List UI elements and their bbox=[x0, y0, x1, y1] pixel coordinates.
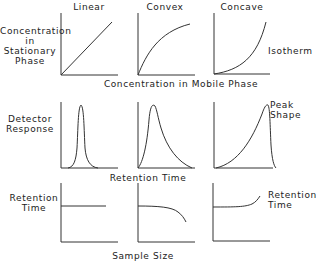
panel-peak-linear bbox=[61, 102, 118, 168]
curve-fronting-peak bbox=[216, 105, 276, 168]
xlabel-isotherm: Concentration in Mobile Phase bbox=[86, 79, 276, 89]
curve-decreasing-retention bbox=[138, 206, 186, 222]
curve-increasing-retention bbox=[213, 196, 260, 207]
axis bbox=[214, 102, 273, 168]
axis bbox=[214, 13, 270, 74]
ylabel-detector-response: Detector Response bbox=[2, 114, 58, 134]
curve-symmetric-peak bbox=[68, 105, 98, 168]
curve-concave-isotherm bbox=[214, 22, 266, 74]
axis bbox=[138, 13, 195, 75]
row-label-line: Shape bbox=[270, 110, 301, 120]
panel-retention-linear bbox=[61, 183, 118, 242]
panel-peak-concave bbox=[214, 102, 276, 168]
ylabel-line: Time bbox=[8, 203, 60, 213]
column-label-concave: Concave bbox=[217, 2, 267, 12]
row-label-line: Time bbox=[268, 200, 316, 210]
curve-convex-isotherm bbox=[138, 24, 190, 75]
ylabel-line: in bbox=[0, 36, 60, 46]
ylabel-line: Concentration bbox=[0, 26, 60, 36]
xlabel-sample-size: Sample Size bbox=[108, 251, 178, 261]
ylabel-isotherm: Concentration in Stationary Phase bbox=[0, 26, 60, 66]
panel-isotherm-concave bbox=[214, 13, 270, 74]
row-label-isotherm: Isotherm bbox=[268, 46, 313, 56]
panel-isotherm-convex bbox=[138, 13, 195, 75]
isotherm-diagram: Linear Convex Concave Concentration in S… bbox=[0, 0, 316, 264]
ylabel-line: Retention bbox=[8, 193, 60, 203]
column-label-convex: Convex bbox=[143, 2, 187, 12]
curve-tailing-peak bbox=[138, 105, 192, 168]
row-label-peak-shape: Peak Shape bbox=[270, 100, 301, 120]
xlabel-retention-time: Retention Time bbox=[108, 173, 188, 183]
panel-peak-convex bbox=[138, 102, 195, 168]
ylabel-line: Response bbox=[2, 124, 58, 134]
row-label-line: Peak bbox=[270, 100, 301, 110]
ylabel-line: Detector bbox=[2, 114, 58, 124]
axis bbox=[138, 102, 195, 168]
row-label-retention-time: Retention Time bbox=[268, 190, 316, 210]
column-label-linear: Linear bbox=[67, 2, 111, 12]
axis bbox=[138, 183, 195, 242]
ylabel-line: Stationary bbox=[0, 46, 60, 56]
ylabel-line: Phase bbox=[0, 56, 60, 66]
panel-retention-convex bbox=[138, 183, 195, 242]
panel-retention-concave bbox=[213, 183, 270, 241]
row-label-line: Retention bbox=[268, 190, 316, 200]
axis bbox=[61, 183, 118, 242]
ylabel-retention-time: Retention Time bbox=[8, 193, 60, 213]
axis bbox=[213, 183, 270, 241]
panel-isotherm-linear bbox=[61, 13, 118, 75]
axis bbox=[61, 102, 118, 168]
